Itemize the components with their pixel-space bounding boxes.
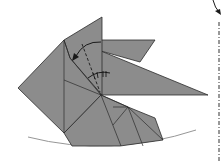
arrowhead-icon xyxy=(215,9,221,15)
origami-diagram xyxy=(0,0,221,161)
right-long-flap xyxy=(101,51,208,95)
